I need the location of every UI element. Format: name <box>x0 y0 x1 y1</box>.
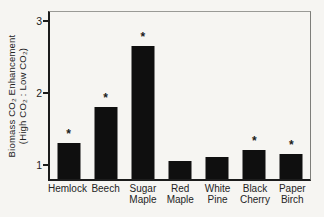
y-tick-label: 1 <box>36 160 42 170</box>
bar-slot-sugar-maple: * <box>124 12 161 179</box>
bar-white-pine <box>206 157 229 179</box>
x-label-white-pine: WhitePine <box>199 184 236 205</box>
bar-slot-beech: * <box>87 12 124 179</box>
x-label-paper-birch: PaperBirch <box>274 184 311 205</box>
x-label-line: Cherry <box>236 195 273 206</box>
x-label-line: Black <box>236 184 273 195</box>
significance-marker-sugar-maple: * <box>141 33 146 42</box>
bar-hemlock <box>57 143 80 179</box>
y-axis-title-line1: Biomass CO₂ Enhancement <box>6 35 17 158</box>
bar-slot-hemlock: * <box>50 12 87 179</box>
x-label-line: Beech <box>87 184 124 195</box>
x-label-line: Maple <box>162 195 199 206</box>
x-label-sugar-maple: SugarMaple <box>124 184 161 205</box>
significance-marker-beech: * <box>103 94 108 103</box>
bar-chart-figure: Biomass CO₂ Enhancement (High CO₂ : Low … <box>0 0 324 217</box>
x-label-line: Maple <box>124 195 161 206</box>
significance-marker-paper-birch: * <box>289 141 294 150</box>
y-axis-title: Biomass CO₂ Enhancement (High CO₂ : Low … <box>6 35 28 158</box>
significance-marker-black-cherry: * <box>252 137 257 146</box>
x-label-line: Birch <box>274 195 311 206</box>
x-label-hemlock: Hemlock <box>48 184 87 205</box>
x-label-red-maple: RedMaple <box>162 184 199 205</box>
y-axis-title-line2: (High CO₂ : Low CO₂) <box>17 35 28 158</box>
x-axis-labels: HemlockBeechSugarMapleRedMapleWhitePineB… <box>48 184 311 205</box>
x-label-line: Paper <box>274 184 311 195</box>
bar-black-cherry <box>243 150 266 179</box>
x-label-line: Hemlock <box>48 184 87 195</box>
x-label-line: Pine <box>199 195 236 206</box>
bar-slot-red-maple <box>161 12 198 179</box>
bars-layer: ***** <box>50 12 310 179</box>
x-label-black-cherry: BlackCherry <box>236 184 273 205</box>
x-label-line: White <box>199 184 236 195</box>
bar-red-maple <box>168 161 191 179</box>
y-tick-2: 2 <box>28 88 48 98</box>
y-tick-label: 2 <box>36 88 42 98</box>
bar-slot-paper-birch: * <box>273 12 310 179</box>
y-tick-label: 3 <box>36 16 42 26</box>
y-tick-3: 3 <box>28 16 48 26</box>
bar-paper-birch <box>280 154 303 179</box>
bar-beech <box>94 107 117 179</box>
bar-slot-black-cherry: * <box>236 12 273 179</box>
x-label-line: Sugar <box>124 184 161 195</box>
bar-slot-white-pine <box>199 12 236 179</box>
x-label-line: Red <box>162 184 199 195</box>
bar-sugar-maple <box>131 46 154 179</box>
significance-marker-hemlock: * <box>66 130 71 139</box>
y-tick-1: 1 <box>28 160 48 170</box>
plot-area: ***** <box>48 11 311 181</box>
x-label-beech: Beech <box>87 184 124 205</box>
